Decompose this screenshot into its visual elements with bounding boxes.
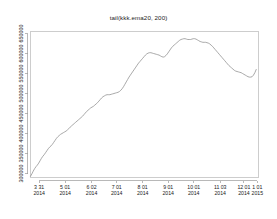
x-tick-label-date: 9 01 [163, 184, 173, 190]
x-tick-label-year: 2014 [188, 190, 200, 196]
x-tick-labels: 3 3120145 0120146 0220147 0120148 012014… [33, 184, 263, 196]
x-tick-label-year: 2014 [214, 190, 226, 196]
x-tick-label-year: 2014 [137, 190, 149, 196]
x-tick-label-year: 2014 [162, 190, 174, 196]
y-tick-label: 500000 [18, 85, 24, 103]
line-chart-plot: 3000003500004000004500005000005500006000… [0, 0, 277, 219]
x-tick-label-year: 2014 [111, 190, 123, 196]
data-series-kkk-ema20 [31, 39, 257, 177]
x-axis [39, 181, 257, 183]
x-tick-label-year: 2015 [252, 190, 264, 196]
x-tick-label-date: 10 01 [187, 184, 200, 190]
x-tick-label-date: 1 01 [252, 184, 262, 190]
y-tick-label: 600000 [18, 45, 24, 63]
y-tick-labels: 3000003500004000004500005000005500006000… [18, 25, 24, 183]
x-tick-label-year: 2014 [238, 190, 250, 196]
chart-canvas: tail(kkk.ema20, 200) 3000003500004000004… [0, 0, 277, 219]
x-tick-label-date: 11 03 [214, 184, 227, 190]
y-tick-label: 650000 [18, 25, 24, 43]
y-tick-label: 450000 [18, 105, 24, 123]
y-tick-label: 300000 [18, 165, 24, 183]
x-tick-label-date: 5 01 [60, 184, 70, 190]
x-tick-label-date: 3 31 [34, 184, 44, 190]
x-tick-label-date: 7 01 [112, 184, 122, 190]
plot-box [31, 32, 259, 178]
x-tick-label-date: 8 01 [138, 184, 148, 190]
y-tick-label: 350000 [18, 145, 24, 163]
y-axis [25, 34, 27, 174]
x-tick-label-date: 12 01 [237, 184, 250, 190]
y-tick-label: 550000 [18, 65, 24, 83]
x-tick-label-year: 2014 [86, 190, 98, 196]
x-tick-label-year: 2014 [59, 190, 71, 196]
y-tick-label: 400000 [18, 125, 24, 143]
x-tick-label-date: 6 02 [87, 184, 97, 190]
x-tick-label-year: 2014 [33, 190, 45, 196]
series-polyline [31, 39, 257, 177]
